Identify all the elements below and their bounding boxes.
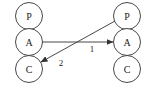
right-node-c: C: [114, 56, 141, 83]
right-node-a: A: [114, 29, 141, 56]
right-stack: P A C: [114, 3, 141, 83]
right-node-c-label: C: [124, 64, 131, 75]
right-node-p: P: [114, 3, 141, 30]
left-node-a: A: [16, 29, 43, 56]
left-node-c: C: [16, 56, 43, 83]
arrow-down-left-icon: [41, 21, 115, 62]
edge-1: 1: [43, 42, 114, 54]
diagram-canvas: P A C P A C 1 2: [0, 0, 149, 91]
left-node-a-label: A: [25, 37, 33, 48]
left-node-p: P: [16, 3, 43, 30]
left-node-p-label: P: [26, 11, 32, 22]
edge-2: 2: [41, 21, 115, 68]
edge-2-label: 2: [59, 58, 64, 68]
right-node-p-label: P: [124, 11, 130, 22]
left-node-c-label: C: [26, 64, 33, 75]
right-node-a-label: A: [123, 37, 131, 48]
edge-1-label: 1: [90, 44, 95, 54]
left-stack: P A C: [16, 3, 43, 83]
